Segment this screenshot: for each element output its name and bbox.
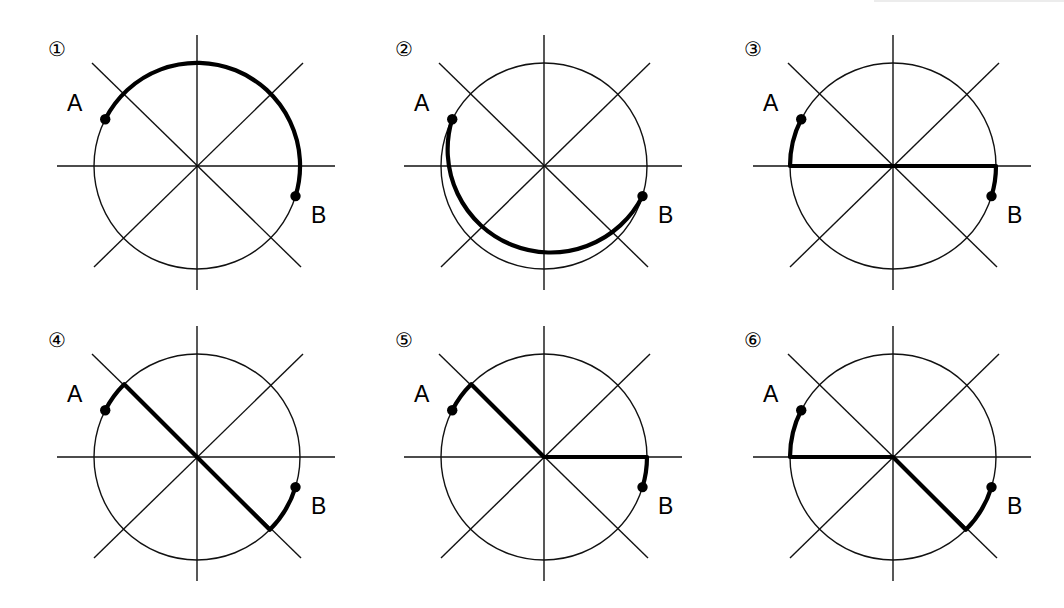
diagram-panel-1: AB①: [48, 35, 335, 290]
highlighted-path: [105, 63, 300, 196]
panel-number: ②: [395, 38, 413, 60]
point-a-dot: [796, 405, 806, 415]
diagram-panel-3: AB③: [744, 35, 1031, 290]
point-b-label: B: [311, 202, 326, 228]
point-a-dot: [796, 114, 806, 124]
panel-number: ⑤: [395, 329, 413, 351]
point-b-dot: [290, 482, 300, 492]
highlighted-path: [790, 410, 992, 530]
point-a-label: A: [67, 381, 83, 407]
diagram-panel-5: AB⑤: [395, 326, 682, 581]
point-a-label: A: [414, 381, 430, 407]
point-b-label: B: [1007, 493, 1022, 519]
point-a-label: A: [414, 90, 430, 116]
point-b-dot: [986, 191, 996, 201]
point-b-dot: [637, 191, 647, 201]
diagram-panel-4: AB④: [48, 326, 335, 581]
circle-path-diagrams: AB①AB②AB③AB④AB⑤AB⑥: [0, 0, 1064, 608]
diagram-panel-2: AB②: [395, 35, 682, 290]
point-b-label: B: [1007, 202, 1022, 228]
highlighted-path: [452, 384, 647, 487]
point-a-label: A: [763, 381, 779, 407]
point-a-dot: [100, 405, 110, 415]
point-a-dot: [447, 405, 457, 415]
point-a-label: A: [67, 90, 83, 116]
panel-number: ①: [48, 38, 66, 60]
panel-number: ⑥: [744, 329, 762, 351]
point-b-dot: [290, 191, 300, 201]
point-a-dot: [100, 114, 110, 124]
point-b-dot: [637, 482, 647, 492]
point-a-dot: [447, 114, 457, 124]
point-b-label: B: [658, 202, 673, 228]
panel-number: ③: [744, 38, 762, 60]
panel-number: ④: [48, 329, 66, 351]
point-a-label: A: [763, 90, 779, 116]
point-b-dot: [986, 482, 996, 492]
diagram-panel-6: AB⑥: [744, 326, 1031, 581]
point-b-label: B: [658, 493, 673, 519]
point-b-label: B: [311, 493, 326, 519]
